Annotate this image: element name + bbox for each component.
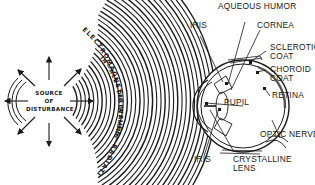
label-lens-line2: LENS	[233, 164, 292, 173]
label-sclerotic-coat: SCLEROTIC COAT	[270, 43, 315, 61]
label-iris-bottom: IRIS	[194, 155, 211, 164]
label-crystalline-lens: CRYSTALLINE LENS	[233, 155, 292, 173]
label-sclerotic-line2: COAT	[270, 52, 315, 61]
label-choroid-coat: CHOROID COAT	[270, 65, 311, 83]
label-choroid-line2: COAT	[270, 74, 311, 83]
label-cornea: CORNEA	[257, 21, 294, 30]
source-label-line1: SOURCE	[26, 89, 72, 97]
label-retina: RETINA	[272, 91, 304, 100]
source-label-line2: OF	[26, 97, 72, 105]
label-optic-nerve: OPTIC NERVE	[260, 130, 315, 139]
label-aqueous-humor: AQUEOUS HUMOR	[218, 2, 296, 11]
label-iris-top: IRIS	[190, 21, 207, 30]
source-label-line3: DISTURBANCE	[26, 105, 72, 113]
label-pupil: PUPIL	[224, 98, 249, 107]
source-of-disturbance-label: SOURCE OF DISTURBANCE	[26, 89, 72, 113]
